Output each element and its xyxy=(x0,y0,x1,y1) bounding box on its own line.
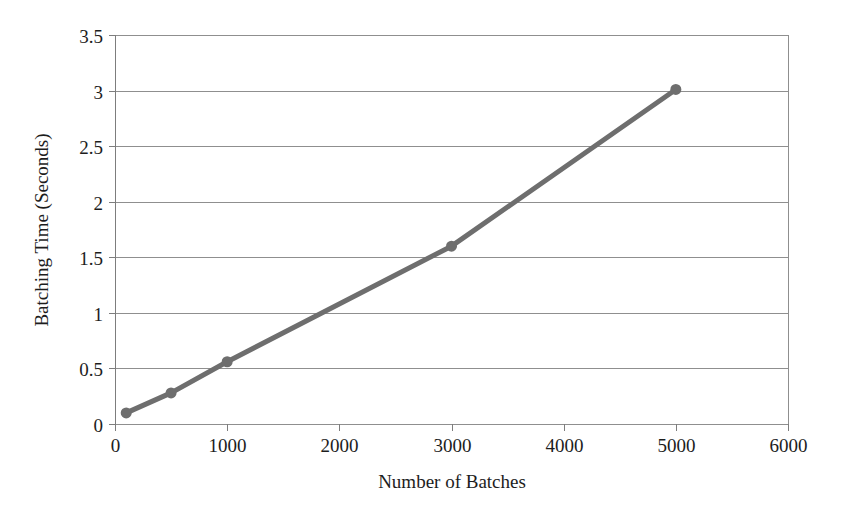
series-line xyxy=(126,89,676,412)
data-point-marker xyxy=(446,241,457,252)
y-tick-label: 1.5 xyxy=(79,248,103,269)
data-point-marker xyxy=(670,84,681,95)
x-tick-label: 3000 xyxy=(434,435,472,456)
x-tick-label: 4000 xyxy=(546,435,584,456)
y-tick-label: 3.5 xyxy=(79,26,103,47)
y-tick-label: 0.5 xyxy=(79,359,103,380)
y-tick-label: 0 xyxy=(94,415,104,436)
data-point-marker xyxy=(166,387,177,398)
x-tick-label: 0 xyxy=(111,435,121,456)
data-point-marker xyxy=(222,356,233,367)
tick-label-layer: 00.511.522.533.5010002000300040005000600… xyxy=(79,26,807,457)
data-point-marker xyxy=(121,407,132,418)
x-tick-label: 6000 xyxy=(770,435,808,456)
line-chart: 00.511.522.533.5010002000300040005000600… xyxy=(0,0,847,507)
y-tick-label: 1 xyxy=(94,304,104,325)
x-tick-label: 1000 xyxy=(209,435,247,456)
chart-container: 00.511.522.533.5010002000300040005000600… xyxy=(0,0,847,507)
y-tick-label: 2.5 xyxy=(79,137,103,158)
y-tick-label: 3 xyxy=(94,82,104,103)
x-tick-label: 2000 xyxy=(321,435,359,456)
y-tick-label: 2 xyxy=(94,193,104,214)
x-axis-title: Number of Batches xyxy=(378,471,526,492)
y-axis-title: Batching Time (Seconds) xyxy=(31,133,53,326)
x-tick-label: 5000 xyxy=(658,435,696,456)
